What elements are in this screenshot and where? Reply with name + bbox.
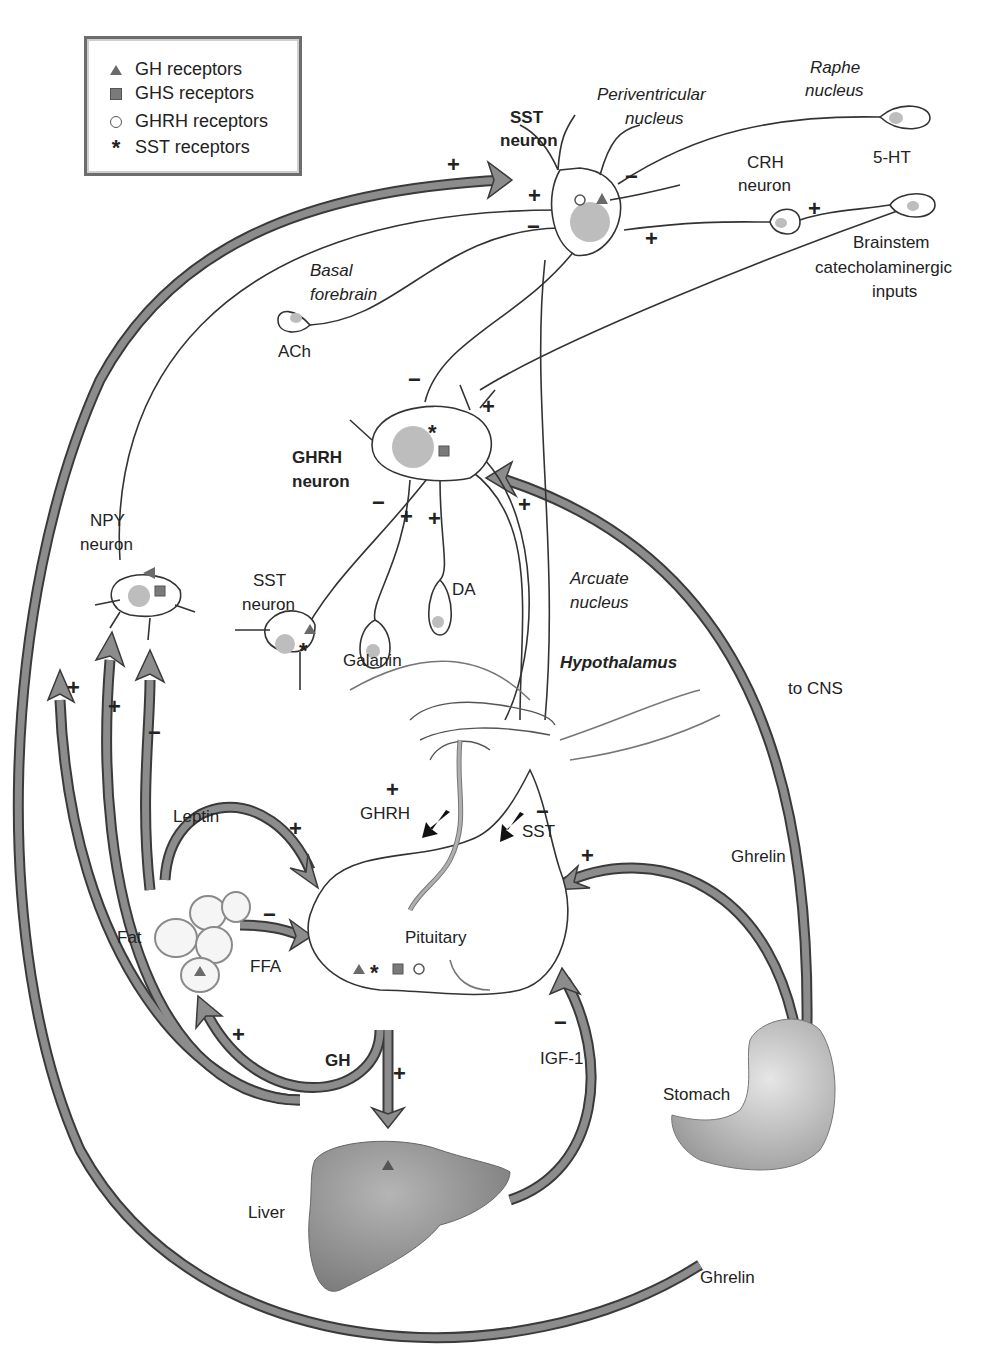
legend-label: SST receptors	[135, 137, 250, 158]
svg-text:+: +	[808, 196, 821, 221]
ghs-receptor-icon	[393, 964, 403, 974]
ghrh-release-label: GHRH	[360, 804, 410, 823]
igf1-label: IGF-1	[540, 1049, 583, 1068]
svg-text:+: +	[232, 1022, 245, 1047]
arcuate-label: Arcuate	[569, 569, 629, 588]
circle-icon	[105, 116, 127, 128]
periventricular-label: Periventricular	[597, 85, 707, 104]
sst-receptor-icon: *	[428, 420, 437, 445]
svg-text:−: −	[625, 164, 638, 189]
raphe-label: Raphe	[810, 58, 860, 77]
brainstem-label: Brainstem	[853, 233, 930, 252]
sst-small-label-2: neuron	[242, 595, 295, 614]
ghrelin-lower-label: Ghrelin	[700, 1268, 755, 1287]
svg-text:+: +	[67, 675, 80, 700]
pituitary-label: Pituitary	[405, 928, 467, 947]
svg-text:+: +	[482, 394, 495, 419]
star-icon: *	[105, 141, 127, 155]
gh-regulation-diagram: * * * SST neuron Periventricular nucleus…	[0, 0, 1006, 1362]
leptin-label: Leptin	[173, 807, 219, 826]
svg-text:+: +	[581, 843, 594, 868]
svg-text:−: −	[536, 799, 549, 824]
5ht-label: 5-HT	[873, 148, 911, 167]
cell-nuclei	[128, 112, 919, 658]
ghs-receptor-icon	[155, 586, 165, 596]
basal-forebrain-label-2: forebrain	[310, 285, 377, 304]
legend: GH receptors GHS receptors GHRH receptor…	[84, 36, 302, 176]
da-label: DA	[452, 580, 476, 599]
svg-text:+: +	[386, 777, 399, 802]
svg-text:−: −	[527, 214, 540, 239]
ghrh-neuron-title-2: neuron	[292, 472, 350, 491]
svg-text:−: −	[554, 1010, 567, 1035]
sst-neuron-title-2: neuron	[500, 131, 558, 150]
svg-text:+: +	[528, 183, 541, 208]
ach-label: ACh	[278, 342, 311, 361]
square-icon	[105, 88, 127, 100]
galanin-label: Galanin	[343, 651, 402, 670]
legend-item-gh: GH receptors	[105, 59, 242, 80]
periventricular-label-2: nucleus	[625, 109, 684, 128]
sst-receptor-icon: *	[299, 638, 308, 663]
ghrelin-upper-label: Ghrelin	[731, 847, 786, 866]
sst-release-label: SST	[522, 822, 555, 841]
svg-text:+: +	[289, 816, 302, 841]
fat-cells	[155, 892, 250, 992]
hypothalamus-label: Hypothalamus	[560, 653, 677, 672]
svg-text:−: −	[372, 490, 385, 515]
npy-label-2: neuron	[80, 535, 133, 554]
svg-text:−: −	[408, 367, 421, 392]
fat-label: Fat	[117, 928, 142, 947]
crh-label-2: neuron	[738, 176, 791, 195]
legend-item-ghs: GHS receptors	[105, 83, 254, 104]
neurons	[95, 106, 935, 994]
liver-label: Liver	[248, 1203, 285, 1222]
svg-text:+: +	[108, 694, 121, 719]
ghrh-neuron-title: GHRH	[292, 448, 342, 467]
svg-text:+: +	[645, 226, 658, 251]
legend-item-sst: * SST receptors	[105, 137, 250, 158]
sst-receptor-icon: *	[370, 960, 379, 985]
svg-text:−: −	[263, 902, 276, 927]
sst-neuron-title: SST	[510, 108, 544, 127]
legend-label: GH receptors	[135, 59, 242, 80]
to-cns-label: to CNS	[788, 679, 843, 698]
legend-label: GHS receptors	[135, 83, 254, 104]
sst-small-label: SST	[253, 571, 286, 590]
arcuate-label-2: nucleus	[570, 593, 629, 612]
legend-item-ghrh: GHRH receptors	[105, 111, 268, 132]
ghs-receptor-icon	[439, 446, 449, 456]
ghrh-receptor-icon	[575, 195, 585, 205]
ffa-label: FFA	[250, 957, 282, 976]
legend-label: GHRH receptors	[135, 111, 268, 132]
svg-text:−: −	[148, 720, 161, 745]
ghrh-receptor-icon	[414, 964, 424, 974]
svg-text:+: +	[518, 492, 531, 517]
liver-shape	[309, 1141, 510, 1291]
brainstem-label-2: catecholaminergic	[815, 258, 953, 277]
svg-text:+: +	[428, 506, 441, 531]
svg-text:+: +	[400, 504, 413, 529]
raphe-label-2: nucleus	[805, 81, 864, 100]
npy-label: NPY	[90, 511, 125, 530]
svg-text:+: +	[393, 1061, 406, 1086]
basal-forebrain-label: Basal	[310, 261, 354, 280]
svg-text:+: +	[447, 152, 460, 177]
gh-label: GH	[325, 1051, 351, 1070]
stomach-label: Stomach	[663, 1085, 730, 1104]
triangle-icon	[105, 65, 127, 75]
brainstem-label-3: inputs	[872, 282, 917, 301]
crh-label: CRH	[747, 153, 784, 172]
